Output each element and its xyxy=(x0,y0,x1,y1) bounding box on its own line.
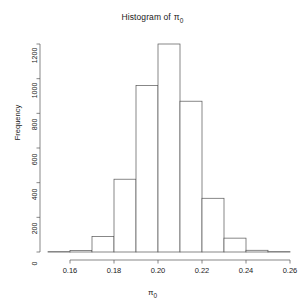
y-tick-label: 0 xyxy=(31,251,38,277)
x-tick-label: 0.16 xyxy=(55,266,85,275)
x-tick-label: 0.24 xyxy=(231,266,261,275)
histogram-bar xyxy=(224,238,246,252)
histogram-bar xyxy=(180,101,202,252)
x-tick-label: 0.22 xyxy=(187,266,217,275)
histogram-bar xyxy=(70,251,92,252)
histogram-bar xyxy=(92,236,114,252)
histogram-plot: Histogram ofπ0 Frequency π0 020040060080… xyxy=(0,0,305,308)
y-tick-label: 1200 xyxy=(31,43,38,69)
bars-group xyxy=(48,44,290,252)
y-tick-label: 200 xyxy=(31,216,38,242)
histogram-bar xyxy=(136,86,158,252)
histogram-bar xyxy=(246,250,268,252)
histogram-bar xyxy=(158,44,180,252)
y-tick-label: 1000 xyxy=(31,77,38,103)
histogram-bar xyxy=(202,198,224,252)
chart-canvas xyxy=(0,0,305,308)
x-tick-label: 0.18 xyxy=(99,266,129,275)
y-tick-label: 800 xyxy=(31,112,38,138)
histogram-bar xyxy=(114,179,136,252)
x-tick-label: 0.26 xyxy=(275,266,305,275)
y-tick-label: 400 xyxy=(31,181,38,207)
y-tick-label: 600 xyxy=(31,147,38,173)
x-tick-label: 0.20 xyxy=(143,266,173,275)
